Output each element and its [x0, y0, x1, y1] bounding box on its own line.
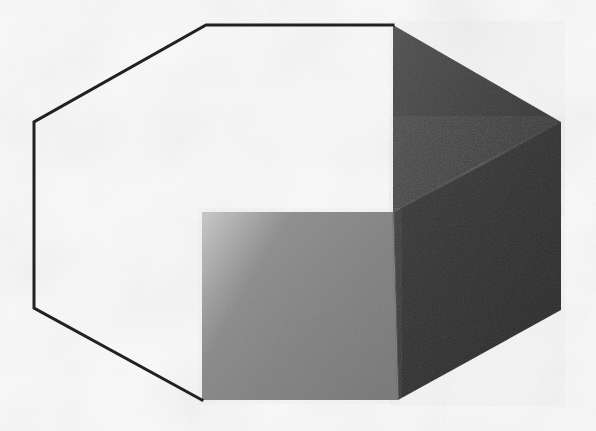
ambiguous-cube-figure [0, 0, 596, 431]
illusion-stage [0, 0, 596, 431]
overlay-paper-grain [0, 0, 596, 431]
